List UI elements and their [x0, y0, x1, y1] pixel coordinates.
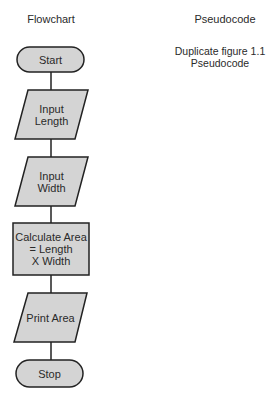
start-label: Start	[17, 47, 84, 72]
calculate-area-line1: Calculate Area	[15, 231, 87, 243]
input-width-line2: Width	[37, 182, 65, 194]
calculate-area-label: Calculate Area = Length X Width	[13, 223, 89, 275]
print-area-label: Print Area	[14, 293, 87, 342]
input-length-line1: Input	[39, 103, 63, 115]
input-width-line1: Input	[39, 170, 63, 182]
input-width-label: Input Width	[15, 157, 88, 206]
calculate-area-line3: X Width	[32, 255, 71, 267]
stop-label: Stop	[16, 360, 83, 387]
calculate-area-line2: = Length	[29, 243, 72, 255]
input-length-label: Input Length	[15, 90, 88, 139]
input-length-line2: Length	[35, 115, 69, 127]
